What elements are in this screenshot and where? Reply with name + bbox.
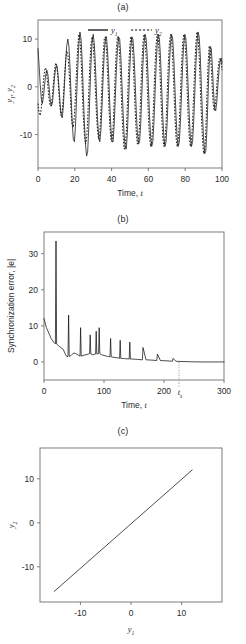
x-tick-label: 20 xyxy=(70,174,80,184)
y-tick-label: 0 xyxy=(29,518,34,528)
panel-a-xlabel: Time, t xyxy=(117,188,143,198)
svg-text:Synchronization error, |e|: Synchronization error, |e| xyxy=(6,259,16,353)
panel-b-xlabel: Time, t xyxy=(121,400,147,410)
panel-c-frame xyxy=(40,448,222,602)
y-tick-label: 0 xyxy=(33,357,38,367)
y-tick-label: 30 xyxy=(29,249,39,259)
x-tick-label: 60 xyxy=(144,174,154,184)
panel-c-xlabel: y1 xyxy=(127,624,135,636)
x-tick-label: 200 xyxy=(157,386,171,396)
x-tick-label: 100 xyxy=(215,174,229,184)
panel-a-legend: y1y2 xyxy=(88,25,162,37)
panel-c: (c) -10010100-10y1y2 xyxy=(0,424,246,644)
y-tick-label: 0 xyxy=(27,82,32,92)
panel-a-ylabel: y1, y2 xyxy=(4,85,16,104)
svg-text:y1, y2: y1, y2 xyxy=(4,85,16,104)
svg-text:Time, t: Time, t xyxy=(121,400,147,410)
y-tick-label: 10 xyxy=(25,474,35,484)
legend-label-y1: y1 xyxy=(110,25,118,37)
series-sync-manifold xyxy=(54,470,192,591)
x-tick-label: 40 xyxy=(107,174,117,184)
x-tick-label: 80 xyxy=(180,174,190,184)
svg-text:y2: y2 xyxy=(6,522,18,530)
x-tick-label: 0 xyxy=(42,386,47,396)
panel-c-plot: -10010100-10y1y2 xyxy=(0,424,246,644)
panel-a-plot: 020406080100100-10Time, ty1, y2y1y2 xyxy=(0,0,246,212)
panel-b-ylabel: Synchronization error, |e| xyxy=(6,259,16,353)
settling-time-label: ts xyxy=(178,387,183,399)
svg-text:Time, t: Time, t xyxy=(117,188,143,198)
series-sync-error xyxy=(44,241,224,362)
series-y2 xyxy=(38,32,222,154)
panel-b-plot: 01002003003020100tsTime, tSynchronizatio… xyxy=(0,212,246,424)
panel-b: (b) 01002003003020100tsTime, tSynchroniz… xyxy=(0,212,246,424)
y-tick-label: -10 xyxy=(20,130,33,140)
panel-c-ylabel: y2 xyxy=(6,522,18,530)
x-tick-label: 10 xyxy=(177,608,187,618)
panel-b-frame xyxy=(44,232,224,380)
x-tick-label: -10 xyxy=(74,608,87,618)
y-tick-label: 10 xyxy=(29,321,39,331)
y-tick-label: 20 xyxy=(29,285,39,295)
x-tick-label: 100 xyxy=(97,386,111,396)
y-tick-label: -10 xyxy=(22,562,35,572)
x-tick-label: 0 xyxy=(36,174,41,184)
figure-container: (a) 020406080100100-10Time, ty1, y2y1y2 … xyxy=(0,0,246,644)
panel-a: (a) 020406080100100-10Time, ty1, y2y1y2 xyxy=(0,0,246,212)
y-tick-label: 10 xyxy=(23,34,33,44)
legend-label-y2: y2 xyxy=(154,25,162,37)
x-tick-label: 0 xyxy=(129,608,134,618)
x-tick-label: 300 xyxy=(217,386,231,396)
